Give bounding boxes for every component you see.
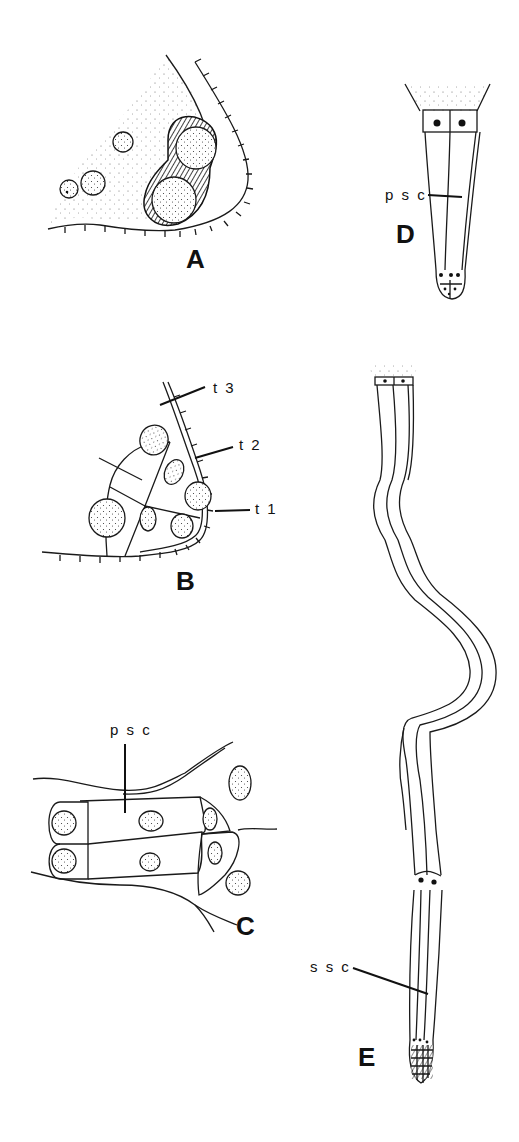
panel-d: p s c D [385, 84, 490, 299]
label-t1: t 1 [255, 500, 278, 517]
panel-a: A [48, 55, 253, 274]
label-t2: t 2 [239, 436, 262, 453]
nucleus [113, 132, 133, 152]
nucleus [52, 849, 76, 873]
nucleus [203, 808, 217, 830]
cuticle-ticks [60, 395, 213, 563]
nucleus [81, 171, 105, 195]
nucleus [89, 499, 125, 537]
nucleus [140, 853, 160, 871]
nucleus [60, 180, 78, 198]
nucleus [171, 514, 193, 538]
nucleus [176, 127, 216, 169]
nucleus [52, 811, 76, 835]
panel-e: s s c E [310, 363, 496, 1083]
panel-b: t 3 t 2 t 1 B [42, 379, 278, 596]
panel-c: p s c C [31, 721, 277, 941]
nucleus [140, 507, 156, 531]
nucleus [226, 871, 250, 895]
label-psc-c: p s c [110, 721, 152, 738]
panel-label-b: B [176, 566, 195, 596]
label-ssc-e: s s c [310, 958, 351, 975]
panel-label-a: A [186, 244, 205, 274]
nucleus [139, 811, 163, 831]
nucleus [152, 177, 196, 223]
panel-label-d: D [396, 219, 415, 249]
nucleus [208, 842, 222, 864]
embryo-proper-cells [411, 1045, 433, 1083]
nucleus [185, 482, 211, 510]
botanical-line-drawing-figure: A p s c D [0, 0, 519, 1142]
nucleus [229, 766, 251, 800]
panel-label-c: C [236, 911, 255, 941]
nucleus [136, 421, 173, 459]
label-psc-d: p s c [385, 186, 427, 203]
nucleus [160, 456, 187, 487]
label-t3: t 3 [213, 379, 236, 396]
panel-label-e: E [358, 1042, 375, 1072]
